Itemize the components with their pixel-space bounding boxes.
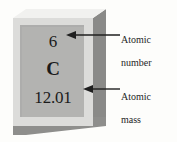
callout-atomic-number-line1: Atomic <box>121 34 152 46</box>
element-symbol: C <box>22 59 84 79</box>
tile-right-face <box>93 9 106 117</box>
atomic-number-arrow <box>66 29 120 41</box>
callout-atomic-number: Atomic number <box>121 22 152 80</box>
callout-atomic-number-line2: number <box>121 57 152 69</box>
callout-atomic-mass-line1: Atomic <box>121 91 151 103</box>
element-tile: 6 C 12.01 <box>13 9 106 126</box>
atomic-mass-arrow <box>83 83 120 95</box>
callout-atomic-mass-line2: mass <box>121 114 151 126</box>
atomic-mass-value: 12.01 <box>22 89 84 107</box>
element-tile-diagram: 6 C 12.01 Atomic number Atomic mass <box>0 0 177 142</box>
callout-atomic-mass: Atomic mass <box>121 79 151 137</box>
